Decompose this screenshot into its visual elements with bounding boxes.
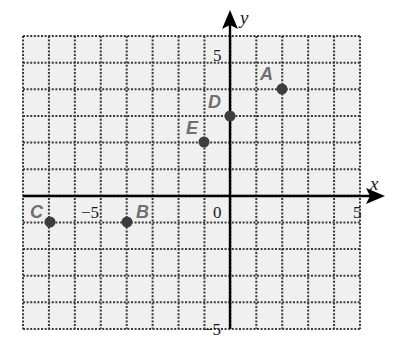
x-tick-label-neg5: −5: [81, 203, 99, 222]
coordinate-plane: x y −5 0 5 5 −5 A B C D E: [0, 0, 394, 343]
point-c-dot: [45, 217, 56, 228]
y-tick-label-neg5: −5: [203, 320, 221, 339]
x-axis-label: x: [369, 173, 379, 194]
point-b-label: B: [136, 202, 149, 222]
point-c-label: C: [30, 202, 44, 222]
grid-background: [23, 36, 360, 329]
point-a-label: A: [259, 64, 273, 84]
y-axis-label: y: [238, 7, 249, 28]
point-b-dot: [122, 217, 133, 228]
x-tick-label-0: 0: [213, 203, 222, 222]
point-d-label: D: [208, 92, 221, 112]
point-e-label: E: [186, 118, 199, 138]
point-e-dot: [199, 137, 210, 148]
point-a-dot: [277, 84, 288, 95]
x-tick-label-5: 5: [353, 203, 362, 222]
y-tick-label-5: 5: [213, 46, 222, 65]
point-d-dot: [225, 111, 236, 122]
